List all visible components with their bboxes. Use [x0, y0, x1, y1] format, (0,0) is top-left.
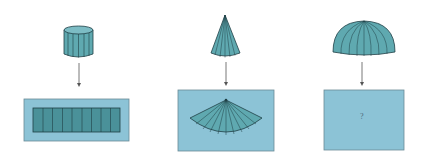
hemisphere-net-panel — [324, 90, 404, 150]
unknown-net-question-mark: ? — [360, 112, 364, 121]
arrow-down-icon — [224, 62, 228, 86]
hemisphere-solid — [333, 21, 395, 56]
cone-net-panel — [178, 90, 274, 151]
arrow-down-icon — [360, 62, 364, 86]
cylinder-solid — [64, 26, 93, 58]
diagram-canvas — [0, 0, 424, 162]
cone-solid — [211, 15, 240, 58]
arrow-down-icon — [77, 63, 81, 87]
cylinder-net-panel — [24, 99, 129, 141]
